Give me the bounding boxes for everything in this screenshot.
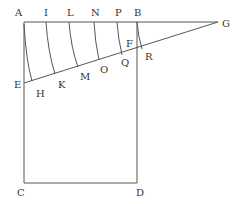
- arc-IK: [46, 22, 55, 74]
- arc-AH: [24, 24, 32, 81]
- arc-BR: [137, 22, 142, 49]
- label-G: G: [222, 18, 230, 29]
- label-M: M: [80, 71, 90, 82]
- label-B: B: [134, 7, 141, 18]
- label-A: A: [14, 7, 23, 18]
- label-L: L: [67, 7, 74, 18]
- label-P: P: [115, 7, 122, 18]
- label-H: H: [36, 88, 45, 99]
- arc-PQ: [117, 22, 122, 55]
- label-K: K: [58, 79, 66, 90]
- label-Q: Q: [121, 57, 129, 68]
- label-D: D: [136, 187, 144, 198]
- geometry-diagram: A I L N P B G F E H K M O Q R C D: [0, 0, 237, 204]
- label-C: C: [17, 187, 25, 198]
- label-F: F: [126, 38, 133, 49]
- label-E: E: [14, 79, 21, 90]
- arc-LM: [69, 22, 78, 67]
- label-N: N: [91, 7, 100, 18]
- label-I: I: [44, 7, 48, 18]
- arc-NO: [94, 22, 99, 60]
- label-O: O: [100, 64, 108, 75]
- label-R: R: [145, 51, 153, 62]
